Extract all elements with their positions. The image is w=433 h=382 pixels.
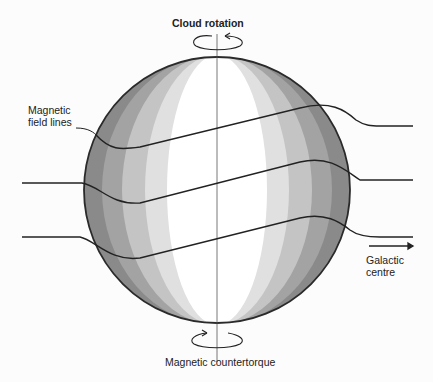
label-galactic: Galactic [366,254,404,266]
label-field-lines-1: Magnetic [28,104,71,116]
label-centre: centre [366,266,395,278]
label-field-lines-2: field lines [28,116,72,128]
cloud-diagram [0,0,433,382]
label-cloud-rotation: Cloud rotation [172,17,244,29]
rotation-arrow-top [194,33,243,50]
galactic-centre-arrow [369,243,413,249]
label-magnetic-countertorque: Magnetic countertorque [165,356,275,368]
